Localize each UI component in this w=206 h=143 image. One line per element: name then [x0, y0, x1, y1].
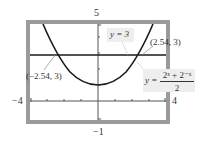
intersection-left-label: (−2.54, 3) — [26, 72, 62, 81]
equation-denominator: 2 — [160, 82, 194, 93]
equation-numerator: 2ˣ + 2⁻ˣ — [160, 70, 194, 82]
equation-fraction: 2ˣ + 2⁻ˣ 2 — [160, 70, 194, 93]
hline-label: y = 3 — [110, 30, 129, 39]
ymin-label: −1 — [93, 127, 104, 137]
xmin-label: −4 — [12, 96, 23, 106]
xmax-label: 4 — [172, 96, 177, 106]
intersection-right-label: (2.54, 3) — [150, 38, 181, 47]
ymax-label: 5 — [94, 8, 99, 18]
equation-prefix: y = — [145, 76, 157, 85]
